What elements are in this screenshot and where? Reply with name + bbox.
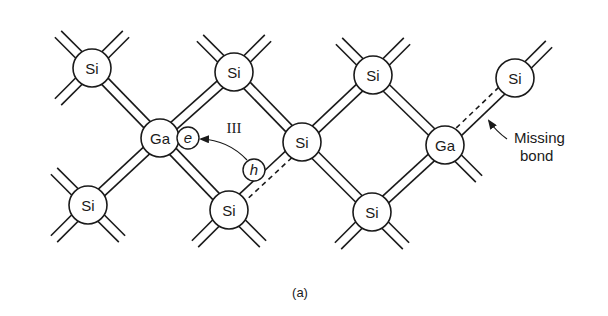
- electron-carrier: e: [177, 127, 199, 149]
- silicon-atom: Si: [353, 193, 391, 231]
- atom-label: Ga: [150, 130, 171, 147]
- missing-bond-label-line1: Missing: [514, 129, 565, 146]
- gallium-atom: Ga: [141, 119, 179, 157]
- atom-label: Si: [222, 202, 235, 219]
- atom-label: Si: [366, 67, 379, 84]
- silicon-atom: Si: [210, 191, 248, 229]
- atom-label: Si: [295, 134, 308, 151]
- atom-label: Si: [81, 197, 94, 214]
- missing-bond-pointer-arrow: [489, 121, 507, 139]
- carrier-label: h: [250, 161, 258, 178]
- silicon-atom: Si: [73, 49, 111, 87]
- silicon-atom: Si: [69, 186, 107, 224]
- silicon-atom: Si: [215, 53, 253, 91]
- figure-caption: (a): [292, 285, 308, 300]
- silicon-atom: Si: [496, 59, 534, 97]
- hole-to-electron-arrow: [201, 139, 247, 160]
- group-iii-label: III: [227, 120, 242, 136]
- silicon-atom: Si: [354, 56, 392, 94]
- carriers-layer: eh: [177, 127, 265, 181]
- atoms-layer: SiSiSiSiGaSiGaSiSiSi: [69, 49, 534, 231]
- silicon-atom: Si: [283, 123, 321, 161]
- carrier-label: e: [184, 129, 192, 146]
- atom-label: Si: [365, 204, 378, 221]
- atom-label: Si: [508, 70, 521, 87]
- atom-label: Si: [85, 60, 98, 77]
- ga-doped-silicon-lattice-diagram: SiSiSiSiGaSiGaSiSiSi eh III Missing bond…: [0, 0, 608, 316]
- atom-label: Ga: [435, 137, 456, 154]
- atom-label: Si: [227, 64, 240, 81]
- missing-bond-label-line2: bond: [520, 147, 553, 164]
- gallium-atom: Ga: [426, 126, 464, 164]
- hole-carrier: h: [243, 159, 265, 181]
